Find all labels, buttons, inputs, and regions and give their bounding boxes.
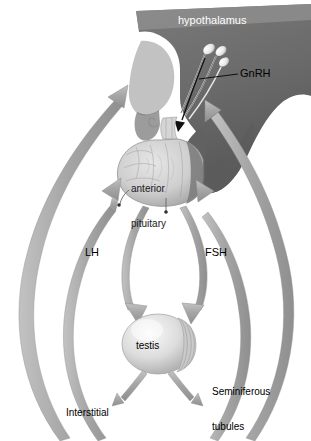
caption-interstitial-cells: Interstitial cells produce testosterone. [66,383,124,441]
caption-left-line1: Interstitial [66,407,124,419]
label-anterior-pituitary: anterior pituitary [131,159,166,253]
label-anterior-pituitary-line1: anterior [131,183,166,195]
figure-canvas: hypothalamus GnRH anterior pituitary LH … [0,0,311,441]
label-fsh: FSH [205,246,227,259]
label-testis: testis [136,340,159,352]
caption-seminiferous-tubules: Seminiferous tubules produce sperm plus … [212,362,270,441]
testis-to-seminiferous-arrow-icon [168,370,203,406]
caption-right-line1: Seminiferous [212,386,270,398]
label-lh: LH [85,246,99,259]
label-gnrh: GnRH [240,67,271,80]
caption-right-line2: tubules [212,421,270,433]
label-hypothalamus: hypothalamus [178,14,247,27]
label-anterior-pituitary-line2: pituitary [131,218,166,230]
fsh-arrow-icon [180,206,207,324]
